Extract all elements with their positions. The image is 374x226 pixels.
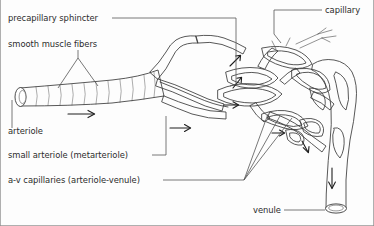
- leader-smooth-muscle-fibers: [58, 50, 98, 88]
- label-venule: venule: [253, 206, 281, 214]
- upper-arteriolar-branch: [150, 35, 246, 79]
- arteriole-vessel: [15, 70, 164, 107]
- label-precapillary-sphincter: precapillary sphincter: [8, 14, 98, 22]
- arrow-venule-outflow: [329, 168, 336, 189]
- leader-small-arteriole: [152, 116, 166, 155]
- label-capillary: capillary: [325, 6, 360, 14]
- label-small-arteriole: small arteriole (metarteriole): [8, 151, 128, 159]
- leader-av-capillaries: [163, 114, 292, 180]
- microcirculation-figure: precapillary sphincter smooth muscle fib…: [0, 0, 374, 226]
- arrow-venule-branch: [302, 141, 309, 153]
- arrow-metarteriole: [170, 125, 191, 132]
- venule-tributary: [268, 112, 326, 152]
- label-arteriole: arteriole: [8, 127, 43, 135]
- label-av-capillaries: a-v capillaries (arteriole-venule): [8, 176, 140, 184]
- metarteriole-loop: [156, 79, 228, 119]
- label-smooth-muscle-fibers: smooth muscle fibers: [8, 40, 97, 48]
- arrow-capillary-entry: [230, 55, 241, 66]
- vascular-diagram: [0, 0, 374, 226]
- leader-precapillary-sphincter: [112, 18, 236, 86]
- arrow-arteriole: [68, 110, 95, 117]
- leader-capillary: [274, 10, 322, 43]
